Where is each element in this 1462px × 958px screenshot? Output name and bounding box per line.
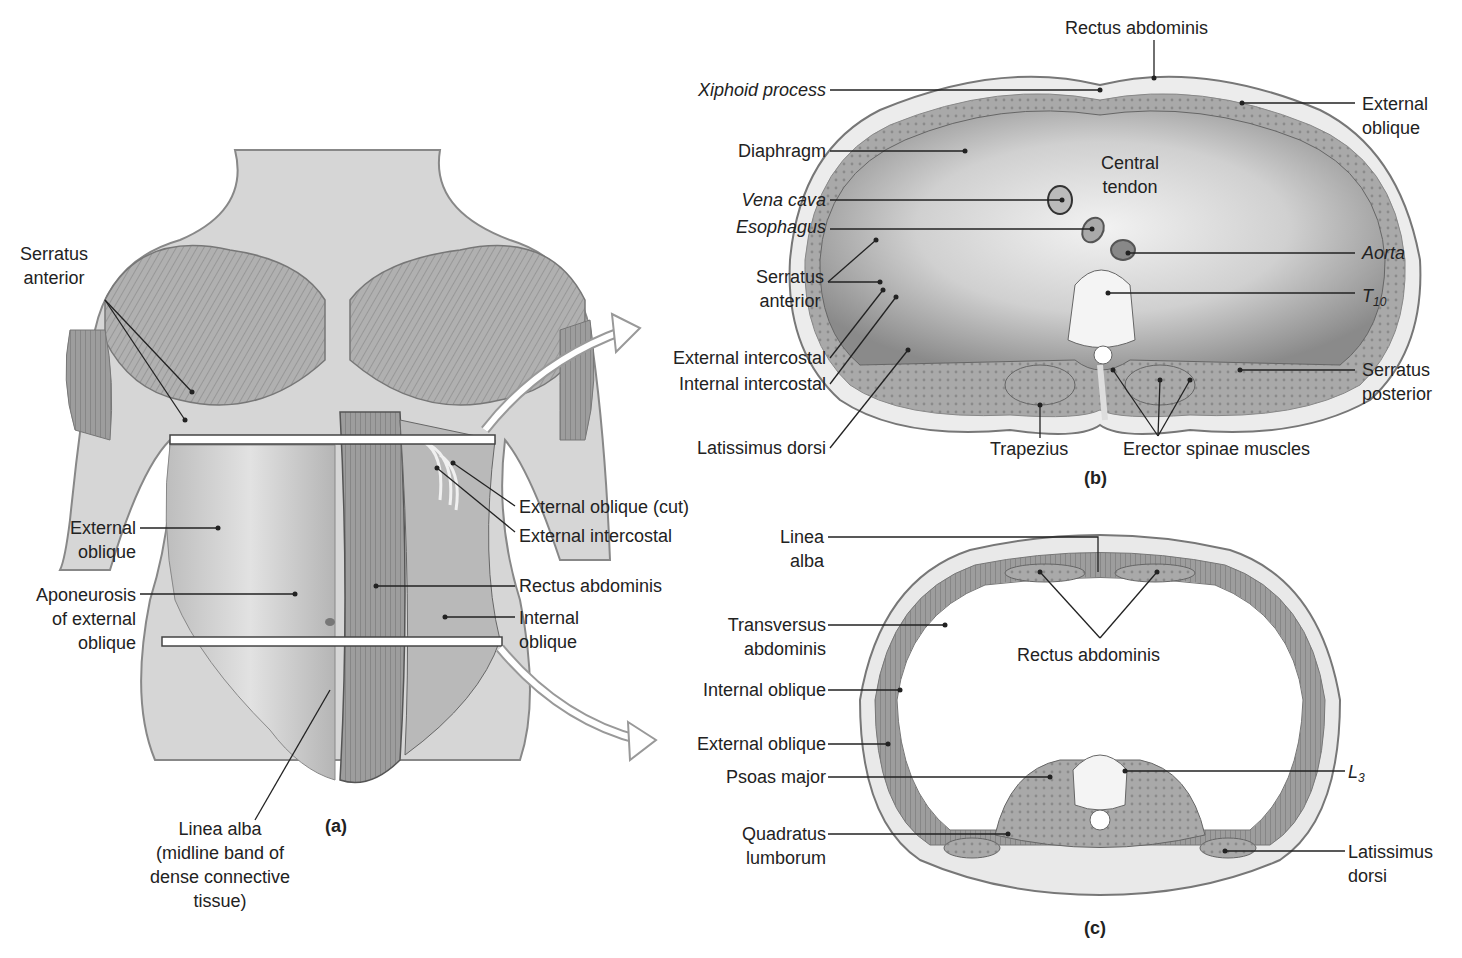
label-a-external-intercostal: External intercostal [519, 524, 672, 548]
label-c-quadratus-lumborum: Quadratus lumborum [700, 822, 826, 870]
label-b-serratus-posterior: Serratus posterior [1362, 358, 1432, 406]
label-b-serratus-anterior: Serratus anterior [740, 265, 840, 313]
label-a-external-oblique-cut: External oblique (cut) [519, 495, 689, 519]
label-b-external-intercostal: External intercostal [620, 346, 826, 370]
label-c-linea-alba: Linea alba [700, 525, 824, 573]
caption-a: (a) [325, 816, 347, 837]
label-b-vena-cava: Vena cava [700, 188, 826, 212]
label-a-external-oblique: External oblique [40, 516, 136, 564]
label-a-internal-oblique: Internal oblique [519, 606, 579, 654]
caption-b: (b) [1084, 468, 1107, 489]
label-b-central-tendon: Central tendon [1090, 151, 1170, 199]
label-b-erector-spinae: Erector spinae muscles [1123, 437, 1310, 461]
label-a-aponeurosis-external-oblique: Aponeurosis of external oblique [10, 583, 136, 655]
caption-c: (c) [1084, 918, 1106, 939]
label-c-rectus-abdominis: Rectus abdominis [1017, 643, 1160, 667]
label-b-diaphragm: Diaphragm [700, 139, 826, 163]
cross-section-l3 [860, 535, 1340, 895]
label-c-latissimus-dorsi: Latissimus dorsi [1348, 840, 1433, 888]
label-b-rectus-abdominis: Rectus abdominis [1065, 16, 1208, 40]
label-a-serratus-anterior: Serratus anterior [20, 242, 88, 290]
label-a-rectus-abdominis: Rectus abdominis [519, 574, 662, 598]
label-b-trapezius: Trapezius [990, 437, 1068, 461]
label-c-internal-oblique: Internal oblique [660, 678, 826, 702]
label-b-internal-intercostal: Internal intercostal [620, 372, 826, 396]
label-b-external-oblique: External oblique [1362, 92, 1428, 140]
label-b-xiphoid-process: Xiphoid process [640, 78, 826, 102]
label-c-psoas-major: Psoas major [660, 765, 826, 789]
label-b-t10: T10 [1362, 284, 1386, 314]
label-b-latissimus-dorsi: Latissimus dorsi [620, 436, 826, 460]
label-c-transversus-abdominis: Transversus abdominis [680, 613, 826, 661]
torso-anterior-view [60, 150, 656, 783]
label-c-l3: L3 [1348, 760, 1365, 790]
label-c-external-oblique: External oblique [660, 732, 826, 756]
label-b-aorta: Aorta [1362, 241, 1405, 265]
label-a-linea-alba: Linea alba (midline band of dense connec… [140, 817, 300, 913]
label-b-esophagus: Esophagus [700, 215, 826, 239]
